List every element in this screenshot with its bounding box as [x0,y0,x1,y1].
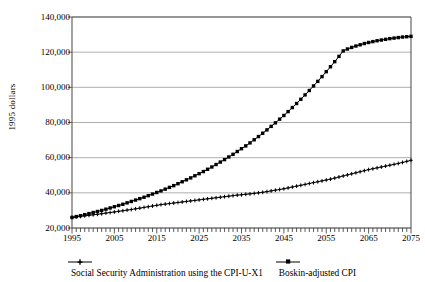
x-tick-label: 2045 [264,234,304,243]
legend-label: Social Security Administration using the… [67,268,265,278]
y-tick-label: 60,000 [28,153,70,162]
x-tick-label: 2015 [137,234,177,243]
chart-figure: 1995 dollars 20,00040,00060,00080,000100… [0,0,425,282]
x-tick-label: 2075 [391,234,425,243]
y-tick-label: 40,000 [28,188,70,197]
series-1 [70,35,412,220]
legend-label: Boskin-adjusted CPI [275,268,358,278]
y-tick-label: 20,000 [28,224,70,233]
y-tick-label: 80,000 [28,118,70,127]
chart-legend: Social Security Administration using the… [0,257,425,278]
x-tick-label: 2065 [349,234,389,243]
x-tick-label: 2025 [179,234,219,243]
legend-cross-marker-icon [67,257,93,267]
x-tick-label: 2055 [306,234,346,243]
legend-item-0[interactable]: Social Security Administration using the… [67,257,265,278]
series-0 [70,158,412,219]
data-series-layer [70,35,412,220]
legend-square-marker-icon [275,257,301,267]
x-tick-label: 2005 [94,234,134,243]
y-axis-label: 1995 dollars [7,62,17,152]
y-tick-label: 140,000 [28,13,70,22]
y-tick-label: 120,000 [28,48,70,57]
y-tick-label: 100,000 [28,83,70,92]
legend-item-1[interactable]: Boskin-adjusted CPI [275,257,358,278]
x-tick-label: 2035 [222,234,262,243]
x-tick-label: 1995 [52,234,92,243]
